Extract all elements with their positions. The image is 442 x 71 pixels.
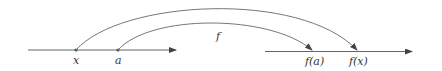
point-label-a: a (115, 55, 122, 66)
point-label-fx: f(x) (349, 56, 368, 67)
function-mapping-diagram: f x a f(a) f(x) (0, 0, 442, 71)
diagram-graphics (0, 0, 442, 71)
point-label-x: x (73, 55, 79, 66)
function-label-f: f (216, 31, 220, 42)
point-label-fa: f(a) (305, 56, 324, 67)
mapping-arc-a-to-fa (118, 23, 312, 50)
